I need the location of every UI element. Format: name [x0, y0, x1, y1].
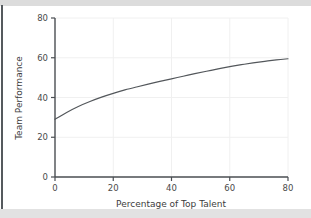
y-tick-label: 0	[43, 172, 48, 182]
x-tick-label: 60	[224, 183, 235, 193]
y-tick-label: 80	[37, 13, 48, 23]
x-tick-label: 0	[52, 183, 57, 193]
x-tick-label: 40	[166, 183, 177, 193]
gridlines	[55, 18, 288, 177]
x-axis-ticks: 020406080	[52, 177, 293, 193]
x-tick-label: 80	[283, 183, 294, 193]
y-tick-label: 20	[37, 132, 48, 142]
chart-figure: 020406080 020406080 Percentage of Top Ta…	[0, 0, 311, 218]
y-tick-label: 60	[37, 53, 48, 63]
x-tick-label: 20	[108, 183, 119, 193]
line-chart-svg: 020406080 020406080 Percentage of Top Ta…	[0, 0, 311, 218]
y-axis-ticks: 020406080	[37, 13, 55, 182]
y-tick-label: 40	[37, 93, 48, 103]
x-axis-title: Percentage of Top Talent	[116, 199, 226, 209]
y-axis-title: Team Performance	[14, 56, 24, 141]
